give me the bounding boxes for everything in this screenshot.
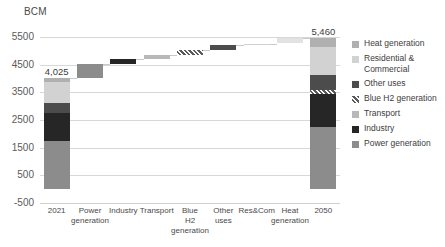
delta-bar[interactable] [77,64,103,78]
y-axis-tick-label: 1500 [0,142,34,153]
waterfall-connector [303,38,310,39]
legend-item[interactable]: Heat generation [352,38,444,49]
legend-swatch-icon [352,96,359,103]
bar-segment [310,90,336,94]
y-axis-tick-label: 2500 [0,114,34,125]
y-axis-tick-label: 5500 [0,31,34,42]
legend-label: Other uses [364,78,444,89]
x-axis-labels: 2021Power generationIndustryTransportBlu… [40,206,345,244]
gridline [40,120,340,121]
gridline [40,148,340,149]
waterfall-connector [203,50,210,51]
legend-label: Industry [364,123,444,134]
bar-segment [44,141,70,189]
gridline [40,203,340,204]
legend-item[interactable]: Power generation [352,138,444,149]
legend-swatch-icon [352,126,359,133]
bar-segment [310,47,336,75]
total-bar[interactable] [44,78,70,189]
legend-label: Power generation [364,138,444,149]
waterfall-connector [103,64,110,65]
waterfall-connector [170,55,177,56]
bar-segment [44,82,70,103]
bar-value-label: 4,025 [35,66,79,77]
legend-item[interactable]: Transport [352,108,444,119]
waterfall-connector [236,45,243,46]
plot-area: 55004500350025001500500-5004,0255,460 [40,37,340,203]
delta-bar[interactable] [210,45,236,50]
total-bar[interactable] [310,38,336,189]
legend-swatch-icon [352,41,359,48]
legend-swatch-icon [352,111,359,118]
y-axis-unit-label: BCM [24,6,47,17]
legend-item[interactable]: Residential & Commercial [352,53,444,74]
delta-bar[interactable] [110,59,136,64]
legend-label: Blue H2 generation [364,93,444,104]
bar-segment [310,38,336,47]
waterfall-connector [270,44,277,45]
legend-item[interactable]: Blue H2 generation [352,93,444,104]
legend-label: Heat generation [364,38,444,49]
legend-item[interactable]: Other uses [352,78,444,89]
legend-label: Residential & Commercial [364,53,444,74]
delta-bar[interactable] [277,38,303,43]
delta-bar[interactable] [177,50,203,54]
y-axis-tick-label: -500 [0,197,34,208]
legend-swatch-icon [352,81,359,88]
bar-segment [44,78,70,82]
x-axis-label: 2050 [302,206,344,216]
bar-segment [44,113,70,141]
bar-segment [310,127,336,189]
legend-item[interactable]: Industry [352,123,444,134]
bar-segment [310,94,336,127]
bar-segment [44,103,70,113]
legend-label: Transport [364,108,444,119]
waterfall-chart: BCM 55004500350025001500500-5004,0255,46… [0,0,445,247]
chart-legend: Heat generationResidential & CommercialO… [352,38,444,153]
waterfall-connector [136,59,143,60]
bar-segment [310,75,336,90]
legend-swatch-icon [352,141,359,148]
y-axis-tick-label: 500 [0,169,34,180]
waterfall-connector [70,78,77,79]
y-axis-tick-label: 4500 [0,59,34,70]
y-axis-tick-label: 3500 [0,86,34,97]
bar-value-label: 5,460 [301,26,345,37]
delta-bar[interactable] [244,44,270,46]
legend-swatch-icon [352,56,359,63]
delta-bar[interactable] [144,55,170,59]
gridline [40,92,340,93]
gridline [40,175,340,176]
